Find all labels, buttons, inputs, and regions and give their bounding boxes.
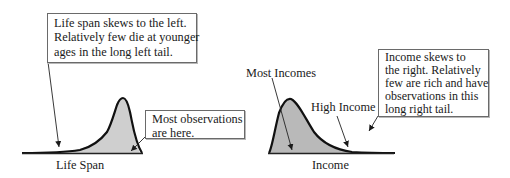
life-span-axis-label: Life Span (56, 158, 104, 173)
left-tail-arrow (48, 62, 59, 147)
most-observations-callout: Most observations are here. (145, 110, 245, 139)
left-skewed-curve (22, 97, 143, 154)
callout-line: ages in the long left tail. (54, 45, 191, 59)
income-axis-label: Income (312, 158, 349, 173)
high-income-arrow (337, 116, 348, 147)
left-skew-callout: Life span skews to the left. Relatively … (47, 13, 197, 63)
callout-line: Life span skews to the left. (54, 16, 191, 30)
callout-line: Most observations (152, 112, 239, 126)
high-income-label: High Income (311, 100, 376, 115)
callout-line: Relatively few die at younger (54, 30, 191, 44)
callout-line: are here. (152, 126, 239, 140)
right-tail-arrow (369, 116, 378, 131)
most-incomes-label: Most Incomes (246, 66, 316, 81)
right-skew-callout: Income skews to the right. Relatively fe… (378, 49, 489, 117)
callout-line: long right tail. (385, 103, 483, 116)
